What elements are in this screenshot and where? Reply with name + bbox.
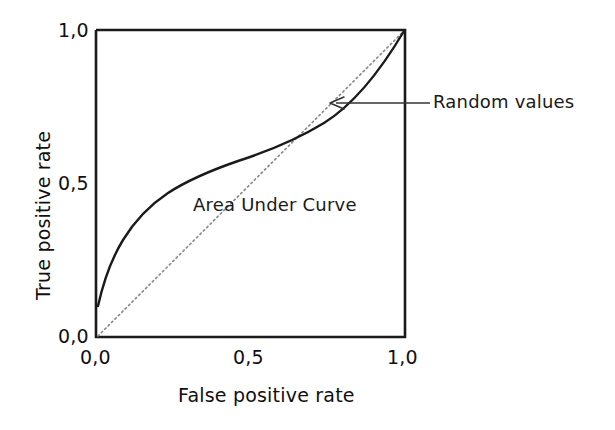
y-axis-title: True positive rate [32, 131, 54, 300]
x-axis-title: False positive rate [178, 384, 355, 406]
x-tick-label-1-0: 1,0 [387, 346, 418, 368]
roc-chart-figure: 1,0 0,5 0,0 0,0 0,5 1,0 True positive ra… [0, 0, 615, 430]
y-tick-label-1-0: 1,0 [58, 19, 89, 41]
random-values-diagonal [98, 31, 404, 336]
y-tick-label-0-0: 0,0 [58, 325, 89, 347]
x-tick-label-0-0: 0,0 [80, 346, 111, 368]
random-values-annotation: Random values [433, 91, 574, 112]
area-under-curve-annotation: Area Under Curve [193, 194, 357, 215]
x-tick-label-0-5: 0,5 [233, 346, 264, 368]
roc-curve-line [98, 31, 404, 306]
y-tick-label-0-5: 0,5 [58, 172, 89, 194]
